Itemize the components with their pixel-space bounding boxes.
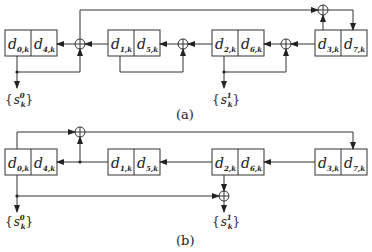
register-a-3: d3,k d7,k — [315, 30, 367, 56]
xor-a-2 — [178, 39, 188, 49]
register-a-0: d0,k d4,k — [5, 30, 57, 56]
register-a-1: d1,k d5,k — [108, 30, 160, 56]
register-b-2: d2,k d6,k — [212, 149, 264, 175]
register-b-1: d1,k d5,k — [108, 149, 160, 175]
xor-a-3 — [281, 39, 291, 49]
panel-b: d0,k d4,k d1,k d5,k d2,k d6,k d3,k d7,k — [5, 127, 367, 248]
xor-b-bottom — [219, 191, 229, 201]
register-b-3: d3,k d7,k — [315, 149, 367, 175]
xor-b-top — [75, 127, 85, 137]
arrow-top-xor-to-d7 — [328, 10, 353, 30]
xor-a-top — [318, 5, 328, 15]
output-s0-label: {s0k} — [5, 213, 33, 231]
caption-a: (a) — [176, 107, 194, 122]
arrow-box0-to-top-xor — [17, 132, 75, 149]
caption-b: (b) — [176, 233, 194, 248]
lfsr-diagram: d0,k d4,k d1,k d5,k d2,k d6,k d3,k d7,k — [0, 0, 372, 252]
xor-a-1 — [75, 39, 85, 49]
panel-a: d0,k d4,k d1,k d5,k d2,k d6,k d3,k d7,k — [5, 5, 367, 122]
output-s0-label: {s0k} — [5, 91, 33, 109]
output-s1-label: {s1k} — [212, 213, 240, 231]
arrow-top-xor-to-d7 — [85, 132, 353, 149]
register-a-2: d2,k d6,k — [212, 30, 264, 56]
register-b-0: d0,k d4,k — [5, 149, 57, 175]
output-s1-label: {s1k} — [212, 91, 240, 109]
